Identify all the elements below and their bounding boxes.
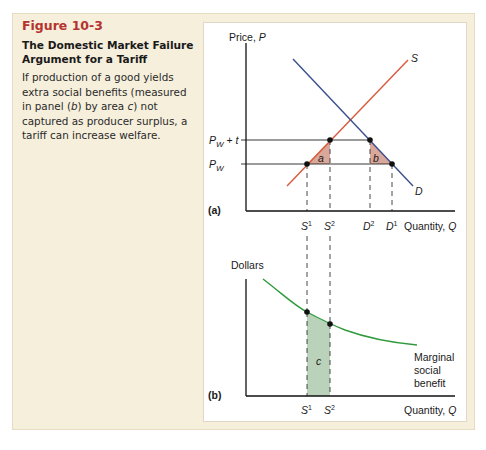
demand-label: D (415, 185, 423, 197)
msb-curve (263, 279, 417, 345)
panel-b-label: (b) (208, 389, 221, 401)
msb-label-line1: Marginal (414, 351, 454, 363)
x-axis-label-b: Quantity, Q (404, 404, 456, 416)
pw-label: PW (209, 158, 225, 173)
dashed-connectors (307, 236, 330, 324)
supply-curve (287, 60, 408, 186)
panel-a: Price, P S D PW + t PW a b (a) S1 S2 D2 … (208, 31, 456, 232)
msb-label-line3: benefit (414, 377, 446, 389)
supply-label: S (411, 52, 418, 64)
area-c (307, 312, 330, 396)
area-b-label: b (373, 152, 379, 164)
x-axis-label-a: Quantity, Q (404, 220, 456, 232)
msb-label-line2: social (414, 364, 441, 376)
x-tick-s1-b: S1 (301, 404, 312, 416)
x-tick-d1-a: D1 (386, 220, 398, 232)
area-a-label: a (318, 152, 324, 164)
x-tick-d2-a: D2 (363, 220, 375, 232)
area-c-label: c (316, 355, 322, 367)
panel-a-label: (a) (208, 204, 221, 216)
chart-svg: Price, P S D PW + t PW a b (a) S1 S2 D2 … (0, 0, 486, 450)
x-tick-s2-a: S2 (324, 220, 335, 232)
x-tick-s2-b: S2 (324, 404, 335, 416)
x-tick-s1-a: S1 (301, 220, 312, 232)
y-axis-label-a: Price, P (229, 31, 266, 43)
demand-curve (293, 59, 413, 186)
y-axis-label-b: Dollars (231, 259, 264, 271)
panel-b: Dollars c Marginal social benefit (b) S1… (208, 259, 456, 416)
pw-t-label: PW + t (209, 134, 240, 149)
